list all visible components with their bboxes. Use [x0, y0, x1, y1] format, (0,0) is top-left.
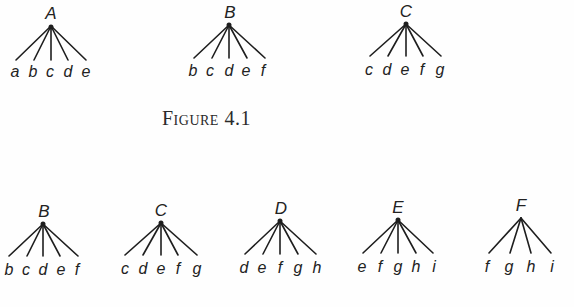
leaf-label: f: [378, 258, 384, 275]
leaf-label: a: [11, 63, 20, 80]
leaf-label: c: [22, 261, 30, 278]
tree-node: [41, 222, 46, 227]
figure-page: A a b c d e B b c d e f: [0, 0, 574, 307]
leaf-label: d: [139, 260, 149, 277]
tree-root-label: E: [392, 198, 404, 217]
tree-edge: [194, 25, 229, 58]
leaf-label: e: [258, 259, 267, 276]
tree-edge: [27, 224, 43, 256]
leaf-label: c: [46, 63, 54, 80]
figure-2-tree-f: F f g h i: [485, 196, 554, 275]
leaf-label: f: [75, 261, 81, 278]
tree-node: [278, 219, 283, 224]
tree-edge: [245, 221, 280, 254]
figure-2-tree-b: B b c d e f: [5, 202, 81, 278]
leaf-label: e: [242, 62, 251, 79]
leaf-label: d: [64, 63, 74, 80]
tree-edge: [51, 26, 86, 60]
leaf-label: c: [206, 62, 214, 79]
leaf-label: f: [176, 260, 182, 277]
tree-edge: [212, 25, 229, 58]
leaf-label: i: [550, 258, 554, 275]
tree-edge: [9, 224, 43, 256]
leaf-label: e: [401, 61, 410, 78]
leaf-label: g: [193, 260, 202, 277]
leaf-label: d: [383, 61, 393, 78]
leaf-label: e: [82, 63, 91, 80]
leaf-label: f: [485, 258, 491, 275]
tree-edge: [43, 224, 60, 256]
leaf-label: f: [278, 259, 284, 276]
leaf-label: g: [436, 61, 445, 78]
tree-root-label: B: [224, 3, 235, 22]
leaf-label: d: [39, 261, 49, 278]
figure-2-tree-e: E e f g h i: [358, 198, 437, 275]
leaf-label: c: [121, 260, 129, 277]
tree-diagrams: A a b c d e B b c d e f: [0, 0, 574, 307]
tree-edge: [143, 223, 161, 255]
tree-edge: [51, 26, 68, 60]
tree-edge: [381, 220, 398, 253]
figure-2-tree-d: D d e f g h: [240, 199, 322, 276]
tree-node: [227, 23, 232, 28]
leaf-label: b: [29, 63, 38, 80]
tree-edge: [125, 223, 161, 255]
figure-2-tree-c: C c d e f g: [121, 201, 202, 277]
tree-edge: [229, 25, 265, 58]
leaf-label: h: [412, 258, 421, 275]
tree-node: [159, 221, 164, 226]
figure-4-1-tree-b: B b c d e f: [189, 3, 267, 79]
tree-edge: [161, 223, 197, 255]
tree-edge: [43, 224, 78, 256]
tree-edge: [16, 26, 51, 60]
leaf-label: e: [358, 258, 367, 275]
tree-node: [49, 25, 54, 30]
leaf-label: g: [294, 259, 303, 276]
leaf-label: g: [505, 258, 514, 275]
tree-edge: [406, 24, 441, 56]
leaf-label: i: [432, 258, 436, 275]
tree-edge: [388, 24, 406, 56]
tree-edge: [398, 220, 416, 253]
tree-edge: [34, 26, 51, 60]
leaf-label: g: [394, 258, 403, 275]
tree-root-label: A: [44, 4, 56, 23]
leaf-label: e: [57, 261, 66, 278]
tree-edge: [161, 223, 178, 255]
figure-caption: Figure 4.1: [162, 107, 251, 130]
tree-edge: [363, 220, 398, 253]
leaf-label: f: [261, 62, 267, 79]
leaf-label: b: [5, 261, 14, 278]
leaf-label: d: [225, 62, 235, 79]
tree-root-label: F: [516, 196, 528, 215]
tree-root-label: C: [155, 201, 168, 220]
leaf-label: f: [420, 61, 426, 78]
leaf-label: e: [157, 260, 166, 277]
tree-edge: [406, 24, 423, 56]
tree-edge: [398, 220, 433, 253]
figure-4-1-tree-a: A a b c d e: [11, 4, 91, 80]
tree-edge: [263, 221, 280, 254]
leaf-label: d: [240, 259, 250, 276]
tree-root-label: D: [275, 199, 287, 218]
leaf-label: c: [365, 61, 373, 78]
tree-node: [396, 218, 401, 223]
tree-edge: [370, 24, 406, 56]
leaf-label: b: [189, 62, 198, 79]
tree-node: [404, 22, 409, 27]
tree-edge: [280, 221, 316, 254]
leaf-label: h: [313, 259, 322, 276]
tree-edge: [229, 25, 247, 58]
tree-edge: [280, 221, 298, 254]
tree-root-label: C: [400, 2, 413, 21]
figure-4-1-tree-c: C c d e f g: [365, 2, 445, 78]
leaf-label: h: [527, 258, 536, 275]
tree-root-label: B: [38, 202, 49, 221]
